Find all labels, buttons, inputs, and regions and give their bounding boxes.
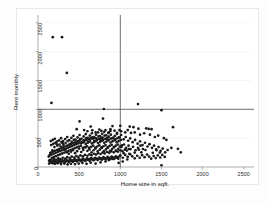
x-tick-label: 0 bbox=[36, 171, 39, 177]
x-tick-label: 2000 bbox=[196, 171, 208, 177]
y-tick-label: 1500 bbox=[37, 80, 43, 92]
y-axis-title: Rent monthly bbox=[12, 74, 19, 110]
gridlines-group bbox=[38, 23, 252, 138]
y-tick-label: 0 bbox=[33, 167, 39, 170]
scatter-plot-figure: 05001000150020002500 0500100015002000250… bbox=[0, 0, 269, 204]
x-tick-label: 1000 bbox=[114, 171, 126, 177]
x-axis-title: Home size in sqft. bbox=[121, 180, 169, 187]
x-tick-label: 2500 bbox=[238, 171, 250, 177]
y-tick-label: 1000 bbox=[37, 109, 43, 121]
y-tick-label: 500 bbox=[36, 138, 42, 147]
x-tick-label: 500 bbox=[74, 171, 83, 177]
y-tick-label: 2500 bbox=[37, 23, 43, 35]
y-tick-label: 2000 bbox=[37, 52, 43, 64]
data-points-group bbox=[47, 36, 182, 167]
x-tick-label: 1500 bbox=[155, 171, 167, 177]
